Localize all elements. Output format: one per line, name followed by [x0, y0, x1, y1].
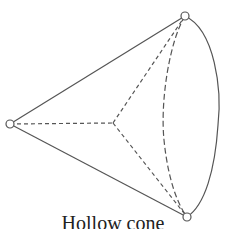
base-ellipse-front — [185, 16, 219, 217]
top-vertex — [181, 12, 189, 20]
base-ellipse-back-dashed — [163, 16, 187, 217]
cone-edge-top — [10, 16, 185, 124]
radius-top-dashed — [113, 16, 185, 123]
apex-vertex — [6, 120, 14, 128]
hollow-cone-diagram — [0, 0, 226, 229]
radius-bottom-dashed — [113, 123, 187, 217]
cone-edge-bottom — [10, 124, 187, 217]
diagram-caption: Hollow cone — [0, 212, 226, 229]
axis-dashed — [10, 123, 113, 124]
